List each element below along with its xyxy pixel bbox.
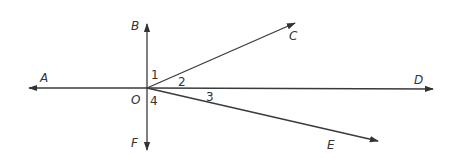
- ray-OC: [147, 23, 295, 88]
- label-F: F: [131, 136, 139, 150]
- label-A: A: [39, 71, 48, 85]
- ray-OE: [147, 88, 378, 141]
- label-D: D: [414, 73, 423, 87]
- angle-label-1: 1: [151, 68, 159, 82]
- label-E: E: [327, 138, 335, 152]
- ray-OD: [147, 88, 433, 89]
- angle-label-3: 3: [206, 90, 214, 104]
- geometry-diagram: A B C D E F O 1 2 3 4: [0, 0, 455, 158]
- angle-label-4: 4: [150, 94, 158, 108]
- label-C: C: [289, 29, 298, 43]
- label-B: B: [131, 19, 139, 33]
- angle-label-2: 2: [178, 75, 186, 89]
- label-O: O: [131, 93, 140, 107]
